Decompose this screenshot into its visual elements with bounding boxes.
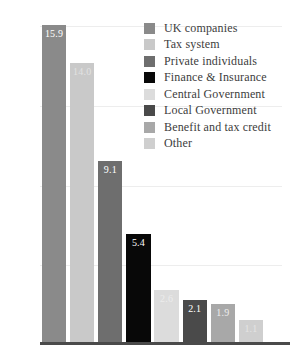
legend-item[interactable]: Local Government — [144, 103, 296, 120]
bar[interactable]: 2.1 — [183, 300, 207, 342]
bar-slot: 14.0 — [68, 23, 96, 342]
legend-item-label: Private individuals — [164, 54, 257, 69]
bar[interactable]: 5.4 — [126, 234, 150, 342]
legend-swatch-icon — [144, 89, 155, 100]
bar-slot: 9.1 — [96, 23, 124, 342]
bar-chart: 0481216 15.914.09.15.42.62.11.91.1 UK co… — [0, 0, 300, 363]
bar-value-label: 5.4 — [126, 237, 150, 248]
legend-item-label: Local Government — [164, 103, 257, 118]
bar-value-label: 14.0 — [70, 66, 94, 77]
legend-swatch-icon — [144, 138, 155, 149]
x-axis-baseline — [40, 342, 290, 345]
legend-item[interactable]: Finance & Insurance — [144, 70, 296, 87]
chart-legend: UK companiesTax systemPrivate individual… — [144, 20, 296, 152]
legend-item[interactable]: Tax system — [144, 37, 296, 54]
legend-item[interactable]: Central Government — [144, 86, 296, 103]
legend-swatch-icon — [144, 122, 155, 133]
bar[interactable]: 9.1 — [98, 161, 122, 342]
bar-value-label: 15.9 — [42, 28, 66, 39]
legend-swatch-icon — [144, 105, 155, 116]
bar-value-label: 2.1 — [183, 303, 207, 314]
legend-item-label: Other — [164, 136, 192, 151]
legend-swatch-icon — [144, 56, 155, 67]
legend-item[interactable]: Other — [144, 136, 296, 153]
legend-item[interactable]: Private individuals — [144, 53, 296, 70]
bar[interactable]: 1.9 — [211, 304, 235, 342]
bar[interactable]: 2.6 — [154, 290, 178, 342]
legend-item-label: Benefit and tax credit — [164, 120, 271, 135]
legend-item[interactable]: UK companies — [144, 20, 296, 37]
bar[interactable]: 14.0 — [70, 63, 94, 342]
bar[interactable]: 1.1 — [239, 320, 263, 342]
bar-value-label: 1.1 — [239, 323, 263, 334]
legend-swatch-icon — [144, 39, 155, 50]
legend-swatch-icon — [144, 72, 155, 83]
bar-value-label: 2.6 — [154, 293, 178, 304]
bar-value-label: 1.9 — [211, 307, 235, 318]
legend-item-label: Central Government — [164, 87, 265, 102]
legend-swatch-icon — [144, 23, 155, 34]
bar[interactable]: 15.9 — [42, 25, 66, 342]
bar-slot: 15.9 — [40, 23, 68, 342]
legend-item-label: Tax system — [164, 37, 220, 52]
legend-item-label: Finance & Insurance — [164, 70, 267, 85]
legend-item-label: UK companies — [164, 21, 237, 36]
bar-value-label: 9.1 — [98, 164, 122, 175]
legend-item[interactable]: Benefit and tax credit — [144, 119, 296, 136]
